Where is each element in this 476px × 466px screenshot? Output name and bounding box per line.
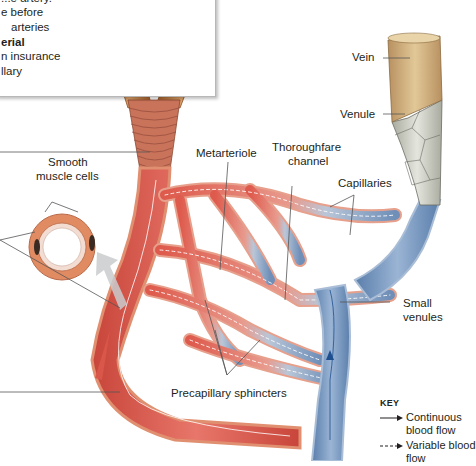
callout-line-3: arteries [11, 20, 49, 35]
legend-item-continuous: Continuous blood flow [380, 411, 399, 439]
label-thoroughfare-1: Thoroughfare [272, 140, 341, 154]
label-capillaries: Capillaries [338, 176, 392, 190]
legend-title: KEY [380, 398, 399, 408]
callout-line-4: erial [1, 35, 25, 50]
legend: KEY Continuous blood flow Variable blood… [380, 398, 399, 466]
callout-line-2: e before [1, 5, 43, 20]
callout-line-5: n insurance [1, 49, 60, 64]
dashed-arrow-icon [380, 442, 404, 450]
arteriole-trunk [128, 100, 180, 170]
label-smooth-muscle-2: muscle cells [36, 169, 99, 183]
solid-arrow-icon [380, 414, 404, 422]
smooth-muscle-cross-section [29, 214, 95, 280]
label-metarteriole: Metarteriole [196, 146, 257, 160]
label-venule: Venule [340, 107, 375, 121]
label-smooth-muscle-1: Smooth [48, 155, 88, 169]
label-small-venules-1: Small [403, 296, 432, 310]
callout-line-6: llary [1, 64, 22, 79]
label-precapillary-sphincters: Precapillary sphincters [171, 386, 287, 400]
label-thoroughfare-2: channel [288, 154, 328, 168]
callout-box: ...e artery. e before arteries erial n i… [0, 0, 216, 97]
legend-label-variable: Variable blood flow [406, 439, 476, 465]
label-vein: Vein [352, 50, 374, 64]
legend-item-variable: Variable blood flow [380, 439, 399, 466]
legend-label-continuous: Continuous blood flow [406, 411, 476, 437]
label-small-venules-2: venules [403, 310, 443, 324]
